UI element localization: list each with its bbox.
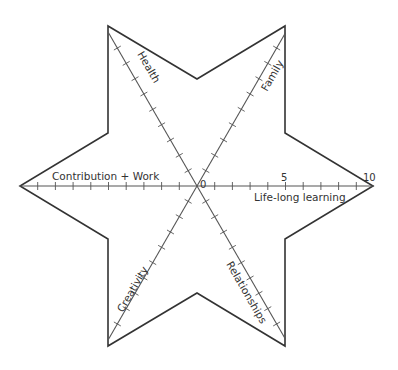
tick-mark (238, 261, 245, 265)
scale-label-5: 5 (281, 172, 287, 183)
axis-label-creativity: Creativity (114, 264, 150, 314)
tick-mark (273, 46, 280, 50)
tick-mark (238, 107, 245, 111)
tick-mark (247, 92, 254, 96)
scale-label-10: 10 (363, 172, 376, 183)
tick-mark (247, 276, 254, 280)
tick-mark (229, 245, 236, 249)
tick-mark (273, 322, 280, 326)
tick-mark (220, 138, 227, 142)
tick-mark (167, 138, 174, 142)
tick-mark (255, 291, 262, 295)
tick-mark (220, 230, 227, 234)
tick-mark (185, 199, 192, 203)
tick-mark (140, 92, 147, 96)
tick-mark (132, 77, 139, 81)
tick-mark (158, 245, 165, 249)
axis-label-relationships: Relationships (224, 259, 269, 326)
tick-mark (202, 169, 209, 173)
tick-mark (167, 230, 174, 234)
tick-mark (176, 215, 183, 219)
scale-label-0: 0 (200, 179, 206, 190)
tick-mark (211, 215, 218, 219)
axis-label-health: Health (135, 49, 163, 85)
tick-mark (176, 153, 183, 157)
tick-mark (149, 261, 156, 265)
tick-mark (229, 123, 236, 127)
tick-mark (264, 307, 271, 311)
axis-label-life-long-learning: Life-long learning (254, 191, 346, 203)
tick-mark (114, 322, 121, 326)
axis-label-contribution-work: Contribution + Work (52, 170, 160, 182)
tick-mark (202, 199, 209, 203)
tick-mark (158, 123, 165, 127)
axis-label-family: Family (258, 58, 285, 93)
life-balance-star-diagram: 0 5 10 Life-long learning Contribution +… (0, 0, 398, 370)
tick-mark (149, 107, 156, 111)
tick-mark (123, 61, 130, 65)
tick-mark (185, 169, 192, 173)
tick-mark (114, 46, 121, 50)
tick-mark (211, 153, 218, 157)
